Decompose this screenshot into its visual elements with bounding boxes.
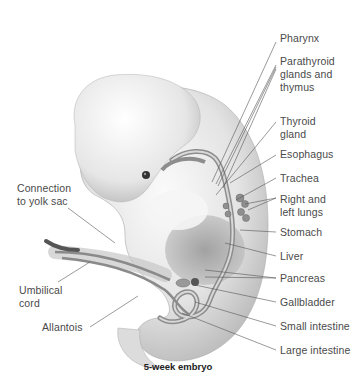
- label-umbilical-cord: Umbilical cord: [19, 284, 63, 310]
- label-lungs: Right and left lungs: [280, 193, 326, 219]
- label-esophagus: Esophagus: [280, 148, 333, 161]
- figure-caption: 5-week embryo: [0, 361, 356, 372]
- eye: [142, 171, 150, 179]
- label-gallbladder: Gallbladder: [280, 296, 335, 309]
- label-allantois: Allantois: [42, 321, 83, 334]
- label-trachea: Trachea: [280, 172, 319, 185]
- embryo-diagram: Pharynx Parathyroid glands and thymus Th…: [0, 0, 356, 381]
- label-stomach: Stomach: [280, 226, 322, 239]
- label-large-intestine: Large intestine: [280, 344, 350, 357]
- label-pancreas: Pancreas: [280, 272, 325, 285]
- label-thyroid-gland: Thyroid gland: [280, 115, 316, 141]
- label-small-intestine: Small intestine: [280, 320, 350, 333]
- label-pharynx: Pharynx: [280, 32, 319, 45]
- label-parathyroid-thymus: Parathyroid glands and thymus: [280, 55, 335, 94]
- label-liver: Liver: [280, 250, 303, 263]
- label-yolk-sac-connection: Connection to yolk sac: [17, 182, 71, 208]
